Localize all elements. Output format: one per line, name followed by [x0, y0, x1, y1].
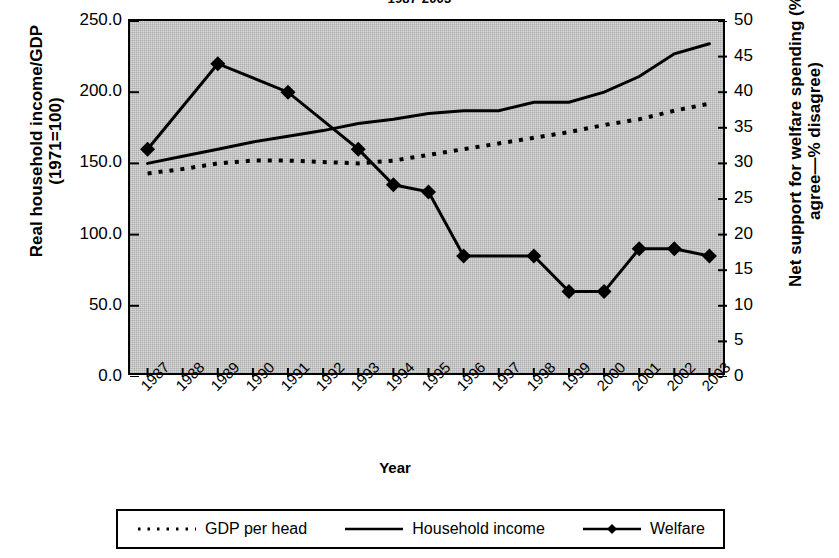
x-axis-tick-label: 1994: [382, 358, 418, 394]
x-axis-tick-label: 1990: [242, 358, 278, 394]
x-axis-tick-label: 1999: [558, 358, 594, 394]
x-axis-tick-label: 1989: [207, 358, 243, 394]
x-axis-tick-label: 1995: [418, 358, 454, 394]
dotted-line-swatch: [136, 523, 198, 535]
legend-item[interactable]: Welfare: [581, 520, 705, 538]
chart-container: 1987-2003 Real household income/GDP (197…: [0, 0, 839, 558]
x-axis-tick-label: 1998: [523, 358, 559, 394]
chart-legend: GDP per headHousehold incomeWelfare: [116, 509, 725, 549]
x-axis-tick-label: 1987: [137, 358, 173, 394]
x-axis-tick-label: 2001: [628, 358, 664, 394]
x-axis-tick-label: 1997: [488, 358, 524, 394]
legend-label: GDP per head: [205, 520, 307, 538]
x-axis-ticks: 1987198819891990199119921993199419951996…: [0, 0, 839, 470]
x-axis-tick-label: 1988: [172, 358, 208, 394]
x-axis-tick-label: 2000: [593, 358, 629, 394]
x-axis-tick-label: 2002: [663, 358, 699, 394]
legend-item[interactable]: Household income: [343, 520, 545, 538]
x-axis-tick-label: 1991: [277, 358, 313, 394]
legend-label: Welfare: [650, 520, 705, 538]
x-axis-tick-label: 2003: [698, 358, 734, 394]
legend-item[interactable]: GDP per head: [136, 520, 307, 538]
solid-line-diamond-swatch: [581, 523, 643, 535]
legend-label: Household income: [412, 520, 545, 538]
solid-line-swatch: [343, 523, 405, 535]
x-axis-tick-label: 1992: [312, 358, 348, 394]
x-axis-tick-label: 1993: [347, 358, 383, 394]
x-axis-title: Year: [0, 459, 790, 476]
x-axis-tick-label: 1996: [453, 358, 489, 394]
